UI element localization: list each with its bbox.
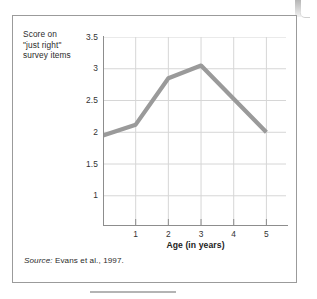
- y-tick-label: 3: [76, 63, 98, 73]
- scan-artifact-tail: [300, 13, 310, 18]
- x-tick-label: 5: [258, 229, 274, 239]
- source-label: Source:: [24, 256, 53, 265]
- y-tick-label: 2.5: [76, 95, 98, 105]
- x-axis-line: [103, 225, 288, 226]
- x-tick-label: 3: [193, 229, 209, 239]
- source-text: Evans et al., 1997.: [53, 256, 124, 265]
- y-tick-label: 2: [76, 127, 98, 137]
- x-tick-label: 4: [226, 229, 242, 239]
- x-tick-label: 2: [160, 229, 176, 239]
- chart-canvas: [103, 37, 286, 227]
- plot-area: [103, 37, 286, 225]
- gridlines-horizontal: [103, 37, 286, 196]
- y-tick-label: 1.5: [76, 159, 98, 169]
- bottom-rule: [90, 291, 176, 293]
- source-note: Source: Evans et al., 1997.: [24, 256, 124, 265]
- x-axis-title: Age (in years): [103, 240, 288, 250]
- y-tick-label: 1: [76, 190, 98, 200]
- y-tick-label: 3.5: [76, 32, 98, 42]
- x-tick-label: 1: [128, 229, 144, 239]
- y-axis-line: [103, 36, 104, 226]
